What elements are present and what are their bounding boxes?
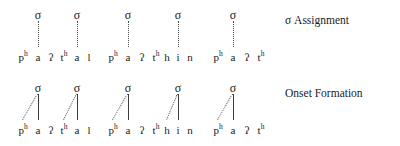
- segment: a: [36, 52, 41, 63]
- syllable-node: σ: [74, 82, 80, 94]
- segment: h: [164, 125, 170, 136]
- segment: th: [153, 52, 160, 63]
- nucleus-association-line: [178, 21, 179, 47]
- segment: ph: [18, 125, 27, 136]
- nucleus-association-line: [77, 21, 78, 47]
- segment: a: [231, 52, 236, 63]
- segment: n: [187, 52, 193, 63]
- segment: ph: [108, 125, 117, 136]
- segment: ph: [213, 52, 222, 63]
- segment: ph: [108, 52, 117, 63]
- onset-association-line: [112, 94, 128, 120]
- nucleus-association-line-solid: [233, 94, 234, 120]
- segment: th: [61, 125, 68, 136]
- syllable-node: σ: [125, 9, 131, 21]
- onset-association-line: [63, 94, 77, 120]
- segment: a: [231, 125, 236, 136]
- nucleus-association-line-solid: [128, 94, 129, 120]
- segment: ph: [18, 52, 27, 63]
- syllable-node: σ: [230, 9, 236, 21]
- nucleus-association-line-solid: [38, 94, 39, 120]
- onset-association-line: [22, 94, 38, 120]
- segment: a: [36, 125, 41, 136]
- segment: ʔ: [49, 125, 54, 136]
- syllable-node: σ: [35, 9, 41, 21]
- segment: th: [61, 52, 68, 63]
- nucleus-association-line-solid: [77, 94, 78, 120]
- syllable-node: σ: [35, 82, 41, 94]
- syllable-node: σ: [125, 82, 131, 94]
- segment: ʔ: [140, 125, 145, 136]
- syllable-node: σ: [175, 82, 181, 94]
- segment: ʔ: [245, 125, 250, 136]
- syllable-node: σ: [74, 9, 80, 21]
- segment: h: [164, 52, 170, 63]
- segment: ʔ: [140, 52, 145, 63]
- nucleus-association-line: [233, 21, 234, 47]
- nucleus-association-line-solid: [178, 94, 179, 120]
- segment: l: [87, 52, 90, 63]
- onset-association-line: [217, 94, 233, 120]
- segment: th: [153, 125, 160, 136]
- segment: ph: [213, 125, 222, 136]
- nucleus-association-line: [128, 21, 129, 47]
- segment: a: [126, 125, 131, 136]
- segment: ʔ: [245, 52, 250, 63]
- stage-label-onset-formation: Onset Formation: [285, 87, 363, 100]
- segment: i: [176, 125, 179, 136]
- segment: i: [176, 52, 179, 63]
- segment: th: [258, 125, 265, 136]
- phonology-derivation-figure: σ Assignmentphaʔthalσσphaʔthhinσσphaʔthσ…: [0, 0, 400, 146]
- onset-association-line: [166, 94, 178, 120]
- segment: ʔ: [49, 52, 54, 63]
- segment: th: [258, 52, 265, 63]
- segment: a: [126, 52, 131, 63]
- segment: a: [75, 125, 80, 136]
- syllable-node: σ: [175, 9, 181, 21]
- segment: n: [187, 125, 193, 136]
- stage-label-sigma-assignment: σ Assignment: [285, 14, 349, 27]
- nucleus-association-line: [38, 21, 39, 47]
- segment: l: [87, 125, 90, 136]
- segment: a: [75, 52, 80, 63]
- syllable-node: σ: [230, 82, 236, 94]
